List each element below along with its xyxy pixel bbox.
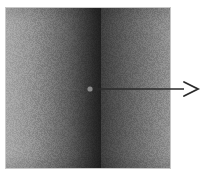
pointer-arrow-head-icon — [184, 82, 198, 96]
figure-root — [0, 0, 205, 179]
grayscale-image-panel — [6, 8, 170, 168]
image-grain-noise-layer — [6, 8, 170, 168]
